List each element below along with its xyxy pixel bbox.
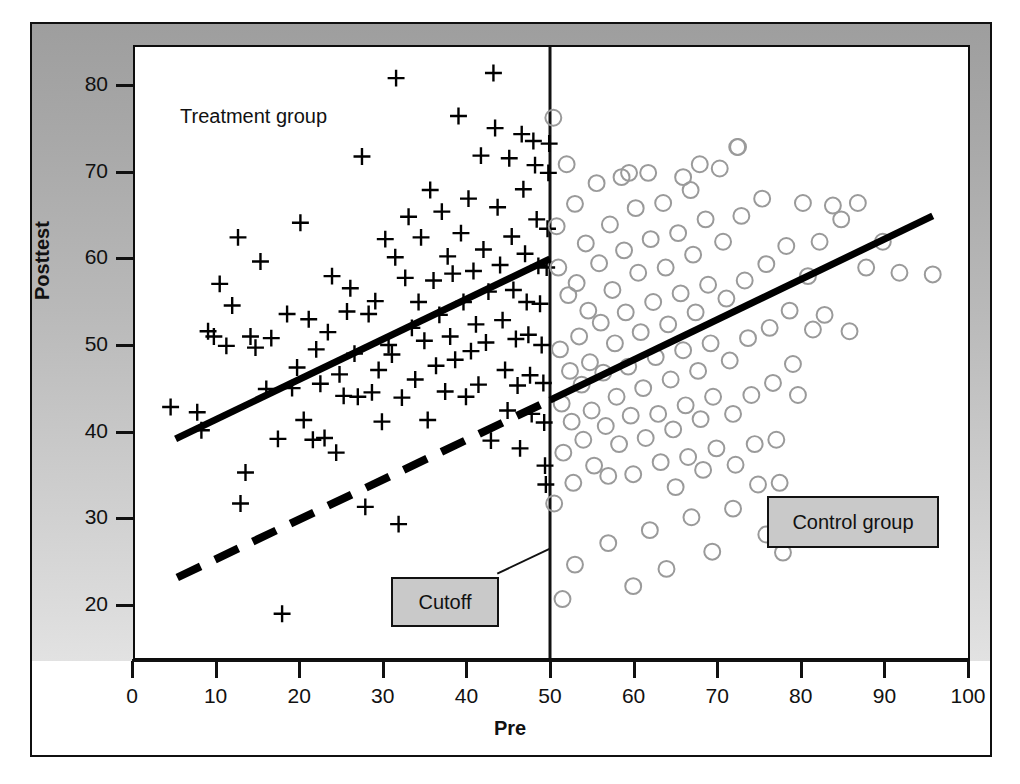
data-point-plus [211,275,228,292]
x-tick-label: 0 [102,684,162,708]
data-point-circle [569,275,585,291]
data-point-circle [692,156,708,172]
x-tick [382,661,385,678]
data-point-plus [224,297,241,314]
data-point-circle [925,266,941,282]
data-point-plus [460,190,477,207]
data-point-circle [567,196,583,212]
data-point-circle [575,432,591,448]
data-point-plus [485,65,502,82]
y-axis-label: Posttest [31,221,54,300]
data-point-circle [698,211,714,227]
x-tick [215,661,218,678]
cutoff-callout: Cutoff [391,577,499,627]
data-point-plus [324,268,341,285]
x-axis-label: Pre [0,717,1020,740]
data-point-circle [705,389,721,405]
data-point-circle [805,322,821,338]
control-regression-line [550,216,933,400]
data-point-plus [289,359,306,376]
data-point-circle [685,247,701,263]
data-point-circle [673,285,689,301]
data-point-plus [537,476,554,493]
data-point-circle [750,477,766,493]
data-point-plus [393,389,410,406]
x-tick-label: 80 [771,684,831,708]
treatment-regression-line [176,259,550,439]
data-point-plus [316,430,333,447]
data-point-circle [586,458,602,474]
data-point-plus [230,229,247,246]
data-point-circle [633,324,649,340]
data-point-circle [609,389,625,405]
data-point-circle [715,234,731,250]
data-point-circle [737,273,753,289]
data-point-plus [472,147,489,164]
data-point-circle [578,235,594,251]
data-point-circle [618,304,634,320]
x-tick [633,661,636,678]
data-point-plus [470,376,487,393]
data-point-circle [704,544,720,560]
data-point-plus [252,253,269,270]
x-tick [298,661,301,678]
x-tick-label: 40 [436,684,496,708]
data-point-plus [419,412,436,429]
data-point-plus [515,181,532,198]
data-point-circle [795,195,811,211]
data-point-plus [400,208,417,225]
data-point-circle [758,256,774,272]
x-tick [716,661,719,678]
x-tick [549,661,552,678]
data-point-circle [858,260,874,276]
data-point-plus [439,248,456,265]
x-tick-label: 30 [353,684,413,708]
y-tick-label: 20 [62,592,108,616]
x-tick-label: 70 [687,684,747,708]
x-tick-label: 100 [938,684,998,708]
data-point-circle [833,211,849,227]
data-point-circle [567,557,583,573]
y-tick-label: 60 [62,245,108,269]
data-point-plus [377,231,394,248]
data-point-plus [328,444,345,461]
data-point-circle [700,277,716,293]
y-tick [116,517,133,520]
data-point-circle [817,307,833,323]
data-point-plus [540,164,557,181]
x-tick-label: 60 [604,684,664,708]
x-tick-label: 10 [186,684,246,708]
data-point-plus [308,341,325,358]
control-group-callout: Control group [767,496,939,548]
y-tick [116,84,133,87]
data-point-plus [319,324,336,341]
data-point-circle [555,445,571,461]
y-tick-label: 70 [62,159,108,183]
data-point-plus [447,351,464,368]
data-point-circle [743,387,759,403]
plot-area: Treatment group Control group Cutoff [133,45,970,660]
data-point-plus [458,388,475,405]
data-point-plus [162,399,179,416]
data-point-plus [433,203,450,220]
data-point-circle [695,462,711,478]
data-point-circle [678,397,694,413]
data-point-plus [532,295,549,312]
data-point-circle [635,380,651,396]
data-point-plus [501,150,518,167]
data-point-circle [625,466,641,482]
data-point-plus [499,402,516,419]
data-point-plus [518,294,535,311]
data-point-circle [765,375,781,391]
x-tick [131,661,134,678]
data-point-circle [722,353,738,369]
data-point-plus [300,311,317,328]
data-point-circle [559,156,575,172]
data-point-circle [643,231,659,247]
data-point-circle [650,406,666,422]
data-point-circle [580,303,596,319]
data-point-circle [642,522,658,538]
data-point-circle [593,315,609,331]
data-point-plus [475,241,492,258]
y-tick-label: 80 [62,72,108,96]
